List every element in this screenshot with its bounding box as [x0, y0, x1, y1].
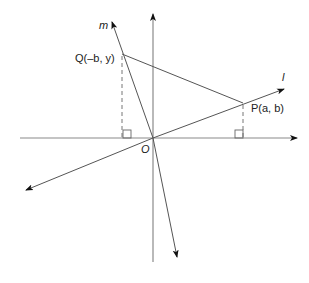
line-m-lower	[153, 138, 177, 257]
segment-qp	[122, 54, 243, 103]
label-point-q: Q(–b, y)	[75, 52, 115, 64]
label-m: m	[99, 19, 108, 31]
label-l: l	[282, 71, 285, 83]
right-angle-marker-q	[123, 130, 131, 138]
label-point-p: P(a, b)	[251, 102, 284, 114]
coordinate-diagram: m l Q(–b, y) P(a, b) O	[0, 0, 309, 283]
line-l-lower	[26, 138, 153, 190]
line-m-upper	[112, 22, 153, 138]
label-origin: O	[141, 143, 150, 155]
right-angle-marker-p	[235, 130, 243, 138]
